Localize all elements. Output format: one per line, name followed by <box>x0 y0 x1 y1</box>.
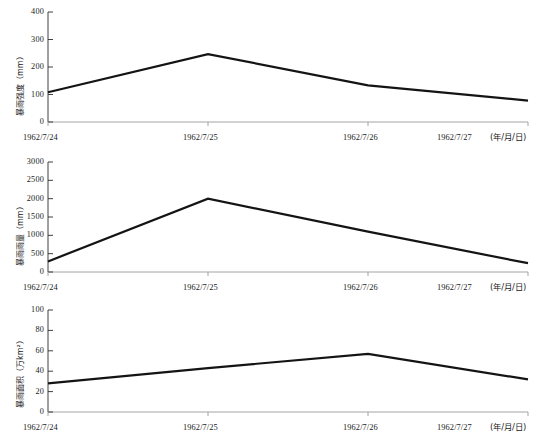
y-tick-label-4-panel-2: 80 <box>20 326 44 334</box>
data-series-line-panel-1 <box>48 199 528 264</box>
x-tick-label-0-panel-2: 1962/7/24 <box>23 423 58 432</box>
y-tick-label-3-panel-0: 300 <box>20 36 44 44</box>
y-tick-label-2-panel-1: 1000 <box>14 231 44 239</box>
x-axis-unit-label-panel-2: (年/月/日) <box>490 423 526 432</box>
y-tick-label-0-panel-1: 0 <box>14 268 44 276</box>
y-axis-label-panel-0: 暴雨强度（mm） <box>16 52 25 116</box>
x-tick-label-0-panel-0: 1962/7/24 <box>23 133 58 142</box>
x-axis-unit-label-panel-0: (年/月/日) <box>490 133 526 142</box>
y-tick-label-4-panel-1: 2000 <box>14 195 44 203</box>
y-tick-label-1-panel-1: 500 <box>14 250 44 258</box>
y-tick-label-2-panel-0: 200 <box>20 63 44 71</box>
x-tick-label-0-panel-1: 1962/7/24 <box>23 283 58 292</box>
y-tick-label-0-panel-2: 0 <box>20 408 44 416</box>
y-tick-label-6-panel-1: 3000 <box>14 158 44 166</box>
y-tick-label-4-panel-0: 400 <box>20 8 44 16</box>
data-series-line-panel-0 <box>48 54 528 101</box>
x-tick-label-3-panel-1: 1962/7/27 <box>437 283 472 292</box>
y-tick-label-5-panel-1: 2500 <box>14 176 44 184</box>
y-tick-label-1-panel-0: 100 <box>20 91 44 99</box>
y-tick-label-3-panel-1: 1500 <box>14 213 44 221</box>
x-tick-label-1-panel-2: 1962/7/25 <box>183 423 218 432</box>
x-tick-label-2-panel-0: 1962/7/26 <box>343 133 378 142</box>
y-tick-label-2-panel-2: 40 <box>20 367 44 375</box>
plot-area-panel-0 <box>0 0 544 150</box>
y-tick-label-3-panel-2: 60 <box>20 347 44 355</box>
y-tick-label-5-panel-2: 100 <box>20 306 44 314</box>
plot-area-panel-2 <box>0 302 544 438</box>
x-tick-label-1-panel-1: 1962/7/25 <box>183 283 218 292</box>
x-tick-label-2-panel-2: 1962/7/26 <box>343 423 378 432</box>
x-tick-label-3-panel-2: 1962/7/27 <box>437 423 472 432</box>
chart-panel-affected-area: 暴雨面积（万km²） 0 20 40 60 80 100 1962/7/24 1… <box>0 302 544 438</box>
chart-panel-rain-amount: 暴雨雨量（mm） 0 500 1000 1500 2000 2500 3000 … <box>0 150 544 302</box>
plot-area-panel-1 <box>0 150 544 302</box>
data-series-line-panel-2 <box>48 354 528 384</box>
y-tick-label-1-panel-2: 20 <box>20 388 44 396</box>
x-tick-label-1-panel-0: 1962/7/25 <box>183 133 218 142</box>
x-tick-label-3-panel-0: 1962/7/27 <box>437 133 472 142</box>
multi-panel-line-chart-figure: 暴雨强度（mm） 0 100 200 300 400 1962/7/24 196… <box>0 0 544 438</box>
x-axis-unit-label-panel-1: (年/月/日) <box>490 283 526 292</box>
y-tick-label-0-panel-0: 0 <box>20 118 44 126</box>
x-tick-label-2-panel-1: 1962/7/26 <box>343 283 378 292</box>
chart-panel-rain-intensity: 暴雨强度（mm） 0 100 200 300 400 1962/7/24 196… <box>0 0 544 150</box>
